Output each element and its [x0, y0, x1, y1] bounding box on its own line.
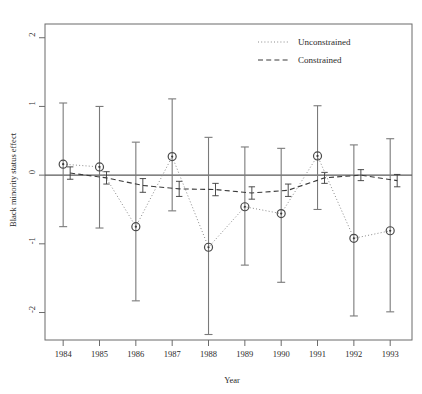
y-tick-label: -1 [27, 237, 37, 244]
x-axis-title: Year [224, 375, 240, 385]
y-tick-label: 2 [27, 33, 37, 37]
y-axis-title: Black minority status effect [8, 132, 18, 227]
chart-container: 210-1-2 19841985198619871988198919901991… [0, 0, 422, 394]
x-tick-label: 1986 [127, 349, 144, 359]
scatter-error-plot: 210-1-2 19841985198619871988198919901991… [0, 0, 422, 394]
unconstrained-markers [59, 152, 394, 251]
x-tick-label: 1988 [200, 349, 217, 359]
chart-legend: UnconstrainedConstrained [258, 37, 351, 65]
x-tick-label: 1993 [382, 349, 399, 359]
y-tick-label: 0 [27, 170, 37, 174]
x-tick-label: 1990 [273, 349, 290, 359]
constrained-error-bars [67, 167, 400, 199]
constrained-series-line [70, 173, 397, 193]
y-tick-label: 1 [27, 101, 37, 105]
y-tick-label: -2 [27, 306, 37, 313]
x-axis: 1984198519861987198819891990199119921993 [55, 340, 399, 359]
x-tick-label: 1984 [55, 349, 73, 359]
y-axis: 210-1-2 [27, 33, 45, 313]
x-tick-label: 1992 [345, 349, 362, 359]
x-tick-label: 1991 [309, 349, 326, 359]
legend-item-label: Constrained [298, 55, 342, 65]
x-tick-label: 1989 [236, 349, 253, 359]
unconstrained-series-line [63, 156, 390, 247]
legend-item-label: Unconstrained [298, 37, 351, 47]
x-tick-label: 1985 [91, 349, 108, 359]
x-tick-label: 1987 [164, 349, 181, 359]
